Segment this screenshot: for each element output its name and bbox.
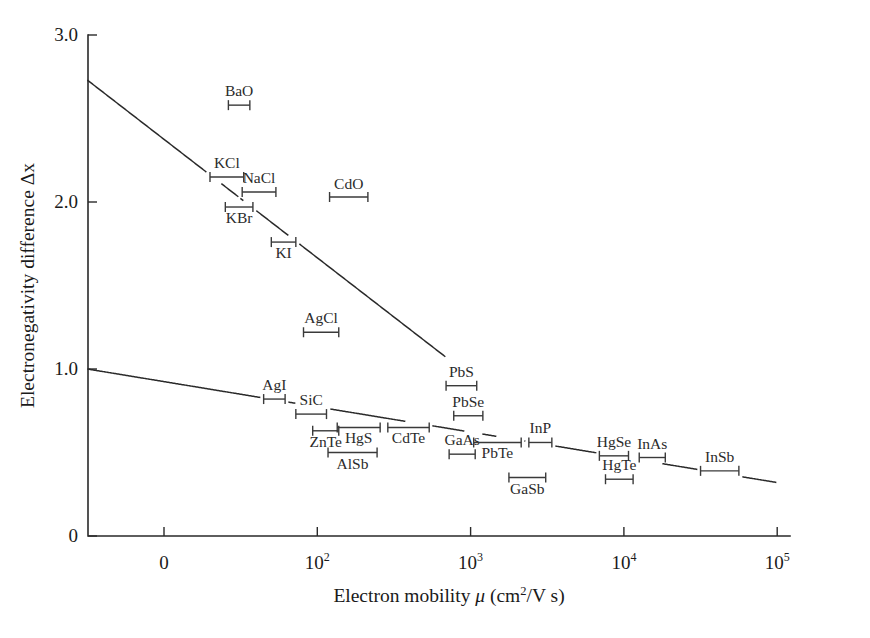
data-point-label: AgCl <box>304 309 338 326</box>
data-point-gaas: GaAs <box>445 431 480 459</box>
data-point-label: InP <box>530 419 552 436</box>
data-point-cdte: CdTe <box>388 422 429 446</box>
data-point-label: InSb <box>705 448 735 465</box>
data-point-nacl: NaCl <box>242 169 276 197</box>
data-point-kbr: KBr <box>225 202 253 226</box>
x-axis-tick-label: 103 <box>458 550 483 573</box>
y-axis-tick-label: 0 <box>69 525 79 546</box>
chart-figure: BaOKClNaClKBrKICdOAgClPbSAgISiCZnTeHgSCd… <box>0 0 870 638</box>
data-point-label: InAs <box>637 435 667 452</box>
data-point-agcl: AgCl <box>304 309 339 337</box>
data-point-insb: InSb <box>701 448 739 476</box>
data-point-ki: KI <box>271 237 296 261</box>
data-point-bao: BaO <box>225 82 253 110</box>
data-point-inas: InAs <box>637 435 667 463</box>
data-point-label: KCl <box>214 154 240 171</box>
trend-lines-group <box>87 80 776 482</box>
data-point-pbte: PbTe <box>474 437 522 461</box>
data-point-label: CdO <box>334 175 363 192</box>
data-point-cdo: CdO <box>330 175 368 202</box>
x-axis-tick-label: 105 <box>765 550 790 573</box>
data-point-gasb: GaSb <box>509 473 546 497</box>
ionic-compounds-trend <box>87 80 445 357</box>
data-point-alsb: AlSb <box>328 448 377 472</box>
y-axis-tick-label: 3.0 <box>54 24 78 45</box>
axis-lines <box>88 35 790 536</box>
data-point-label: NaCl <box>243 169 276 186</box>
x-axis-tick-label: 104 <box>611 550 636 573</box>
data-point-sic: SiC <box>296 391 327 419</box>
data-point-label: PbSe <box>452 393 484 410</box>
y-axis-tick-label: 1.0 <box>54 358 78 379</box>
data-point-label: AlSb <box>337 455 369 472</box>
data-point-label: GaSb <box>510 480 545 497</box>
data-point-label: HgTe <box>602 456 636 473</box>
data-point-label: GaAs <box>445 431 480 448</box>
covalent-compounds-trend <box>87 369 776 482</box>
data-point-kcl: KCl <box>210 154 244 182</box>
data-point-label: HgS <box>345 429 373 446</box>
y-axis-tick-label: 2.0 <box>54 191 78 212</box>
x-axis-tick-label: 0 <box>159 552 169 573</box>
data-point-pbs: PbS <box>446 363 477 391</box>
data-point-label: HgSe <box>597 433 632 450</box>
y-axis-title: Electronegativity difference Δx <box>17 163 38 408</box>
data-point-label: AgI <box>262 376 286 393</box>
x-axis-tick-label: 102 <box>305 550 330 573</box>
axes-group <box>88 35 790 536</box>
data-point-inp: InP <box>529 419 552 447</box>
data-point-label: BaO <box>225 82 253 99</box>
data-point-label: PbS <box>449 363 474 380</box>
data-point-label: SiC <box>300 391 323 408</box>
data-point-label: ZnTe <box>309 433 342 450</box>
data-point-label: PbTe <box>482 444 514 461</box>
chart-svg: BaOKClNaClKBrKICdOAgClPbSAgISiCZnTeHgSCd… <box>0 0 870 638</box>
data-point-agi: AgI <box>262 376 286 404</box>
data-points-group: BaOKClNaClKBrKICdOAgClPbSAgISiCZnTeHgSCd… <box>210 82 739 496</box>
tick-labels-group: 01.02.03.00102103104105 <box>54 24 789 573</box>
x-axis-title: Electron mobility μ (cm2/V s) <box>333 584 564 607</box>
data-point-hgte: HgTe <box>602 456 636 484</box>
data-point-pbse: PbSe <box>452 393 484 421</box>
data-point-label: KI <box>275 244 291 261</box>
data-point-hgs: HgS <box>337 422 380 446</box>
axis-titles-group: Electronegativity difference ΔxElectron … <box>17 163 565 607</box>
data-point-label: CdTe <box>392 429 425 446</box>
data-point-label: KBr <box>226 209 254 226</box>
